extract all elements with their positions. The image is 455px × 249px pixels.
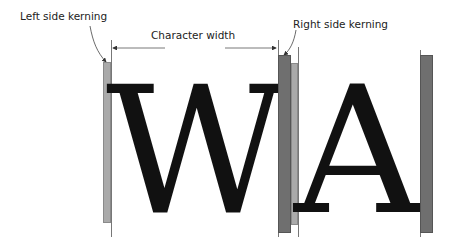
glyph-w: W (106, 64, 287, 240)
left-kerning-callout (90, 26, 106, 62)
a-right-kerning-bar (420, 55, 433, 233)
kerning-diagram: Left side kerning Character width Right … (0, 0, 455, 249)
glyph-a: A (294, 64, 421, 240)
right-kerning-dark-bar (278, 55, 291, 233)
